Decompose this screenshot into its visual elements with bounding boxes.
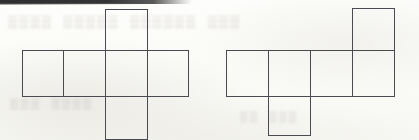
cube-net-cross-row-col-2 [63, 50, 106, 97]
cube-net-cross-row-col-4 [147, 50, 189, 97]
bleed-through-text-middle: ▒▒▒ ▒▒▒▒ [10, 97, 94, 111]
scan-edge-band-secondary [0, 3, 150, 5]
cube-net-cross-top-flap [105, 9, 148, 51]
cube-net-cross-bottom-flap [105, 96, 148, 140]
cube-net-zigzag-bottom-flap [268, 96, 311, 136]
cube-net-zigzag-row-col-4 [352, 50, 395, 97]
cube-net-zigzag-row-col-1 [226, 50, 269, 97]
figure-page: ▒▒▒▒ ▒▒▒▒▒ ▒▒▒▒▒▒ ▒▒▒ ▒▒▒ ▒▒▒▒ ▒▒ ▒▒▒ [0, 0, 419, 140]
cube-net-zigzag-row-col-3 [310, 50, 353, 97]
cube-net-cross-row-col-1 [22, 50, 64, 97]
cube-net-cross-row-col-3 [105, 50, 148, 97]
cube-net-zigzag-row-col-2 [268, 50, 311, 97]
cube-net-zigzag-top-flap [352, 8, 395, 51]
